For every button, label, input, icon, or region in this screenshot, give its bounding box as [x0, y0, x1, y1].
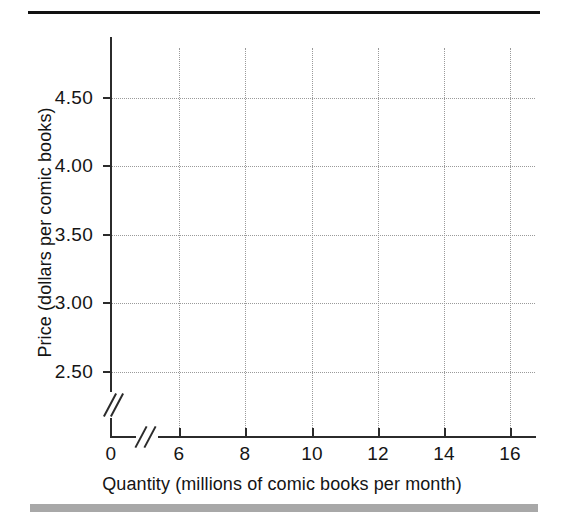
bottom-gray-bar	[30, 504, 538, 512]
y-tick-4-50	[103, 97, 112, 99]
gridline-y-3-00	[111, 303, 535, 304]
y-axis-title: Price (dollars per comic books)	[35, 68, 56, 398]
x-tick-label-14: 14	[433, 443, 455, 465]
x-tick-label-6: 6	[174, 443, 185, 465]
x-tick-14	[444, 428, 446, 437]
y-tick-4-00	[103, 165, 112, 167]
gridline-x-12	[378, 48, 379, 436]
gridline-y-3-50	[111, 235, 535, 236]
y-axis-break-icon	[103, 390, 125, 420]
x-axis-title: Quantity (millions of comic books per mo…	[0, 474, 564, 495]
x-tick-label-16: 16	[499, 443, 521, 465]
y-tick-2-50	[103, 371, 112, 373]
x-axis-line	[110, 436, 536, 438]
x-tick-label-8: 8	[240, 443, 251, 465]
x-axis-break-icon	[133, 423, 161, 451]
x-tick-10	[312, 428, 314, 437]
x-tick-6	[179, 428, 181, 437]
gridline-y-4-50	[111, 98, 535, 99]
x-tick-8	[245, 428, 247, 437]
gridline-x-10	[312, 48, 313, 436]
x-tick-16	[510, 428, 512, 437]
gridline-y-4-00	[111, 166, 535, 167]
y-tick-3-50	[103, 234, 112, 236]
x-tick-label-12: 12	[367, 443, 389, 465]
gridline-x-16	[510, 48, 511, 436]
gridline-y-2-50	[111, 372, 535, 373]
gridline-x-8	[245, 48, 246, 436]
gridline-x-6	[179, 48, 180, 436]
x-tick-label-0: 0	[106, 443, 117, 465]
x-tick-label-10: 10	[301, 443, 323, 465]
y-tick-3-00	[103, 302, 112, 304]
gridline-x-14	[444, 48, 445, 436]
x-tick-12	[378, 428, 380, 437]
top-rule-divider	[28, 11, 540, 14]
comic-book-price-quantity-graph: 4.50 4.00 3.50 3.00 2.50 0 6	[0, 0, 564, 523]
